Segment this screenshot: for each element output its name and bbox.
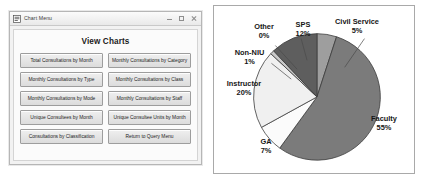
button-unique-consultees-by-month[interactable]: Unique Consultees by Month xyxy=(20,110,103,125)
window-controls xyxy=(167,16,199,21)
button-monthly-consultations-by-class[interactable]: Monthly Consultations by Class xyxy=(108,72,191,87)
chart-menu-window: Chart Menu View Charts Total Consultatio… xyxy=(9,11,202,165)
window-titlebar[interactable]: Chart Menu xyxy=(10,12,201,26)
close-icon[interactable] xyxy=(191,16,196,21)
chart-button-grid: Total Consultations by Month Monthly Con… xyxy=(20,53,191,154)
chart-menu-pane: Chart Menu View Charts Total Consultatio… xyxy=(0,0,211,180)
button-monthly-consultations-by-mode[interactable]: Monthly Consultations by Mode xyxy=(20,91,103,106)
pie-label-civil-service: Civil Service 5% xyxy=(328,17,386,35)
window-title: Chart Menu xyxy=(24,16,164,21)
pie-label-ga: GA 7% xyxy=(254,137,278,155)
pie-label-sps: SPS 12% xyxy=(288,20,318,38)
minimize-icon[interactable] xyxy=(167,16,172,21)
pie-label-faculty: Faculty 55% xyxy=(362,114,406,132)
application-screen: Chart Menu View Charts Total Consultatio… xyxy=(0,0,421,180)
pie-label-non-niu: Non-NIU 1% xyxy=(226,48,273,66)
maximize-icon[interactable] xyxy=(179,16,184,21)
button-total-consultations-by-month[interactable]: Total Consultations by Month xyxy=(20,53,103,68)
pie-label-instructor: Instructor 20% xyxy=(216,79,272,97)
button-monthly-consultations-by-type[interactable]: Monthly Consultations by Type xyxy=(20,72,103,87)
pie-label-other: Other 0% xyxy=(241,22,287,40)
form-window-icon xyxy=(13,15,21,23)
form-body: View Charts Total Consultations by Month… xyxy=(13,29,198,161)
pie-chart: Other 0% SPS 12% Civil Service 5% Non-NI… xyxy=(214,6,414,173)
page-title: View Charts xyxy=(20,37,191,46)
button-monthly-consultations-by-category[interactable]: Monthly Consultations by Category xyxy=(108,53,191,68)
chart-frame: Other 0% SPS 12% Civil Service 5% Non-NI… xyxy=(213,5,415,174)
button-consultations-by-classification[interactable]: Consultations by Classification xyxy=(20,129,103,144)
pie-chart-pane: Other 0% SPS 12% Civil Service 5% Non-NI… xyxy=(211,0,421,180)
button-unique-consultee-units-by-month[interactable]: Unique Consultee Units by Month xyxy=(108,110,191,125)
button-monthly-consultations-by-staff[interactable]: Monthly Consultations by Staff xyxy=(108,91,191,106)
button-return-to-query-menu[interactable]: Return to Query Menu xyxy=(108,129,191,144)
